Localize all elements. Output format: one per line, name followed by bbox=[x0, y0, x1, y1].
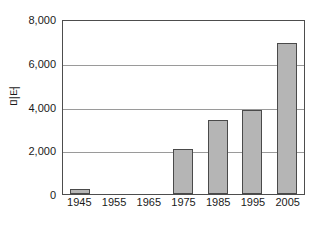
y-axis-tick-labels: 02,0004,0006,0008,000 bbox=[20, 20, 60, 195]
bar-slot bbox=[132, 21, 166, 194]
y-axis-tick-label: 8,000 bbox=[28, 15, 56, 26]
bar[interactable] bbox=[173, 149, 193, 195]
bar[interactable] bbox=[277, 43, 297, 194]
x-axis-tick-label: 1995 bbox=[236, 197, 271, 217]
y-axis-tick-label: 2,000 bbox=[28, 146, 56, 157]
x-axis-tick-label: 2005 bbox=[270, 197, 305, 217]
x-axis-tick-label: 1985 bbox=[201, 197, 236, 217]
bar-slot bbox=[235, 21, 269, 194]
y-axis-title-label: 미터 bbox=[10, 85, 21, 105]
y-axis-tick-label: 0 bbox=[50, 190, 56, 201]
bar-slot bbox=[166, 21, 200, 194]
bar[interactable] bbox=[242, 110, 262, 194]
y-axis-tick-label: 4,000 bbox=[28, 102, 56, 113]
bars-group bbox=[63, 21, 304, 194]
x-axis-tick-label: 1945 bbox=[62, 197, 97, 217]
bar-slot bbox=[63, 21, 97, 194]
bar-chart: 미터 02,0004,0006,0008,000 194519551965197… bbox=[0, 0, 321, 227]
bar[interactable] bbox=[70, 189, 90, 194]
bar-slot bbox=[270, 21, 304, 194]
y-axis-tick-label: 6,000 bbox=[28, 58, 56, 69]
bar-slot bbox=[201, 21, 235, 194]
bar-slot bbox=[97, 21, 131, 194]
x-axis-tick-label: 1965 bbox=[131, 197, 166, 217]
plot-area bbox=[62, 20, 305, 195]
x-axis-tick-labels: 1945195519651975198519952005 bbox=[62, 197, 305, 217]
x-axis-tick-label: 1975 bbox=[166, 197, 201, 217]
bar[interactable] bbox=[208, 120, 228, 194]
x-axis-tick-label: 1955 bbox=[97, 197, 132, 217]
